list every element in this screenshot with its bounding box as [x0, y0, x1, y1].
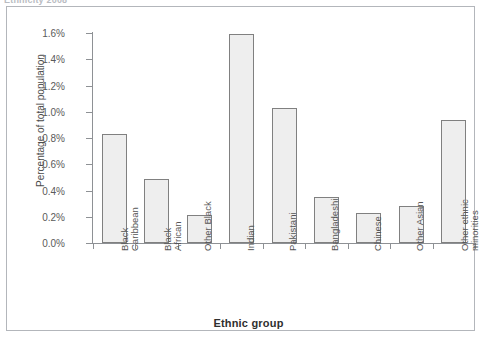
y-axis-tick: [86, 112, 92, 113]
y-axis-tick: [86, 59, 92, 60]
x-axis-category-label-line: Chinese: [373, 216, 383, 251]
y-axis-tick-label: 0.8%: [5, 133, 65, 144]
x-axis-tick: [263, 244, 264, 249]
y-axis-tick: [86, 33, 92, 34]
bar: [229, 34, 254, 243]
y-axis-tick-label: 1.4%: [5, 54, 65, 65]
y-axis-tick-label: 0.6%: [5, 159, 65, 170]
y-axis-tick-label: 1.0%: [5, 106, 65, 117]
x-axis-category-label-line: Other Black: [203, 201, 213, 251]
x-axis-category-label-line: minorities: [470, 199, 480, 251]
chart-panel: Percentage of total population 0.0%0.2%0…: [6, 6, 475, 331]
top-caption: Ethnicity 2008: [4, 0, 184, 5]
x-axis-category-label-line: African: [173, 221, 183, 251]
y-axis-tick: [86, 138, 92, 139]
x-axis-category-label: Indian: [246, 225, 256, 251]
x-axis-tick: [433, 244, 434, 249]
y-axis-tick: [86, 191, 92, 192]
y-axis-tick: [86, 243, 92, 244]
x-axis-category-label-line: Other Asian: [415, 201, 425, 251]
x-axis-category-label-line: Indian: [246, 225, 256, 251]
x-axis-tick: [93, 244, 94, 249]
ethnicity-bar-chart: Ethnicity 2008 Percentage of total popul…: [0, 0, 483, 342]
y-axis-tick: [86, 217, 92, 218]
y-axis-tick: [86, 86, 92, 87]
x-axis-category-label-line: Caribbean: [130, 207, 140, 251]
x-axis-tick: [220, 244, 221, 249]
x-axis-category-label-line: Bangladeshi: [330, 199, 340, 251]
x-axis-category-label: BlackCaribbean: [120, 207, 140, 251]
y-axis-tick-label: 0.2%: [5, 211, 65, 222]
y-axis-tick-label: 0.0%: [5, 238, 65, 249]
y-axis-tick: [86, 164, 92, 165]
x-axis-category-label: Other Black: [203, 201, 213, 251]
x-axis-category-label: BlackAfrican: [163, 221, 183, 251]
y-axis-tick-label: 1.2%: [5, 80, 65, 91]
x-axis-category-label: Bangladeshi: [330, 199, 340, 251]
x-axis-category-label: Other ethnicminorities: [460, 199, 480, 251]
x-axis-category-label: Other Asian: [415, 201, 425, 251]
x-axis-tick: [348, 244, 349, 249]
x-axis-tick: [390, 244, 391, 249]
x-axis-title: Ethnic group: [7, 317, 483, 329]
x-axis-category-label-line: Pakistani: [288, 212, 298, 251]
x-axis-category-label: Chinese: [373, 216, 383, 251]
y-axis-tick-label: 1.6%: [5, 28, 65, 39]
y-axis-tick-label: 0.4%: [5, 185, 65, 196]
x-axis-tick: [305, 244, 306, 249]
x-axis-category-label: Pakistani: [288, 212, 298, 251]
